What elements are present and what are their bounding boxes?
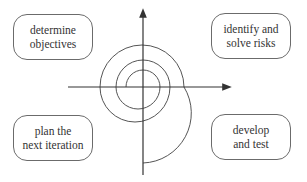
spiral-model-diagram: determine objectives identify and solve … <box>0 0 307 182</box>
quadrant-box-identify-solve-risks: identify and solve risks <box>211 13 291 59</box>
quadrant-box-determine-objectives: determine objectives <box>13 14 93 60</box>
box-label-line-1: plan the <box>35 124 72 138</box>
box-label-line-2: and test <box>233 137 268 151</box>
box-label-line-2: next iteration <box>23 138 84 152</box>
box-label-line-2: objectives <box>30 37 77 51</box>
box-label-line-2: solve risks <box>227 36 276 50</box>
quadrant-box-plan-next-iteration: plan the next iteration <box>13 115 93 161</box>
box-label-line-1: determine <box>30 23 76 37</box>
quadrant-box-develop-and-test: develop and test <box>211 114 291 160</box>
box-label-line-1: develop <box>233 123 269 137</box>
spiral-curve <box>100 45 191 163</box>
box-label-line-1: identify and <box>223 22 278 36</box>
